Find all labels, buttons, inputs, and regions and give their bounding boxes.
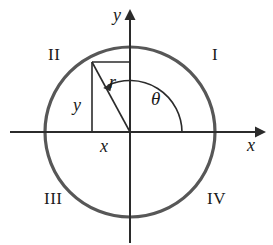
quadrant-label-ii: II [48, 46, 60, 63]
unit-circle-diagram [0, 0, 273, 245]
x-axis-arrowhead [255, 127, 266, 138]
angle-arc [108, 81, 182, 132]
radius-label: r [109, 73, 116, 91]
horizontal-leg-label: x [100, 137, 108, 155]
figure-canvas: I II III IV x y r y x θ [0, 0, 273, 245]
angle-theta-label: θ [151, 89, 160, 108]
y-axis-arrowhead [125, 9, 136, 20]
x-axis-label: x [247, 136, 255, 154]
vertical-leg-label: y [73, 96, 81, 114]
y-axis-label: y [113, 6, 121, 24]
quadrant-label-iv: IV [207, 190, 226, 207]
quadrant-label-iii: III [44, 190, 62, 207]
quadrant-label-i: I [212, 46, 218, 63]
